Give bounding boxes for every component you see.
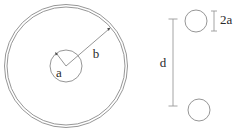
- diameter-label: 2a: [220, 12, 233, 27]
- cross-section-diagram: a b d 2a: [0, 0, 243, 131]
- two-wire-cross-section: d 2a: [160, 10, 233, 121]
- coaxial-cross-section: a b: [5, 5, 128, 128]
- top-wire-circle: [185, 10, 207, 32]
- figure-canvas: a b d 2a: [0, 0, 243, 131]
- radius-b-leader-line: [66, 30, 108, 66]
- bottom-wire-circle: [188, 99, 210, 121]
- radius-b-label: b: [93, 46, 100, 61]
- separation-label: d: [160, 55, 167, 70]
- separation-dimension: d: [160, 19, 178, 106]
- diameter-dimension: 2a: [211, 11, 233, 31]
- radius-a-label: a: [56, 65, 62, 80]
